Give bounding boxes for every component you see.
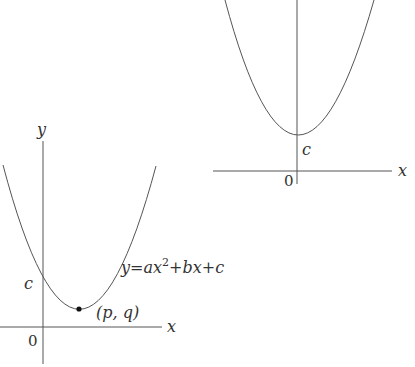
eq-plus1: + [169, 258, 182, 277]
eq-exponent: 2 [162, 256, 169, 269]
left-x-axis-label: x [167, 317, 176, 336]
eq-sign: = [130, 258, 143, 277]
left-graph: y x 0 c (p, q) y=ax2+bx+c [0, 120, 224, 364]
eq-a: a [143, 258, 153, 277]
right-origin-label: 0 [284, 172, 294, 190]
right-x-axis-label: x [398, 161, 407, 180]
vertex-label: (p, q) [96, 303, 139, 322]
right-graph: x 0 c [213, 0, 407, 190]
eq-c: c [215, 258, 224, 277]
eq-plus2: + [202, 258, 215, 277]
right-parabola [225, 0, 374, 135]
vertex-point [76, 306, 81, 311]
eq-x2: x [193, 258, 202, 277]
left-origin-label: 0 [28, 332, 38, 350]
eq-x1: x [153, 258, 162, 277]
eq-b: b [182, 258, 192, 277]
diagram-canvas: x 0 c y x 0 c (p, q) y=ax2+bx+c [0, 0, 415, 367]
left-intercept-label: c [24, 274, 33, 293]
equation-label: y=ax2+bx+c [120, 256, 224, 277]
left-y-axis-label: y [36, 120, 47, 139]
right-intercept-label: c [302, 140, 311, 159]
